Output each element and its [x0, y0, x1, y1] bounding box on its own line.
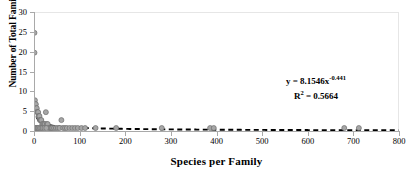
y-tick-mark — [30, 91, 34, 92]
data-point — [114, 126, 119, 131]
data-point — [44, 126, 49, 131]
y-tick-mark — [30, 72, 34, 73]
x-tick-label: 500 — [247, 137, 277, 146]
equation-text: y = 8.1546x-0.441 — [256, 72, 376, 87]
y-tick-label: 25 — [5, 28, 27, 36]
chart-title — [0, 0, 405, 1]
data-point — [342, 126, 347, 131]
r-squared-superscript: 2 — [300, 89, 303, 96]
data-point — [43, 110, 48, 115]
x-tick-label: 100 — [65, 137, 95, 146]
y-axis-line — [34, 12, 35, 132]
y-tick-mark — [30, 52, 34, 53]
y-tick-label: 10 — [5, 87, 27, 95]
x-tick-label: 300 — [156, 137, 186, 146]
data-point — [83, 126, 88, 131]
y-tick-label: 30 — [5, 8, 27, 16]
data-point — [356, 126, 361, 131]
data-point — [59, 118, 64, 123]
x-tick-label: 200 — [110, 137, 140, 146]
x-tick-label: 700 — [338, 137, 368, 146]
y-tick-mark — [30, 12, 34, 13]
x-tick-label: 400 — [202, 137, 232, 146]
x-axis-title: Species per Family — [34, 155, 399, 167]
data-point — [211, 126, 216, 131]
y-tick-mark — [30, 32, 34, 33]
x-tick-label: 800 — [384, 137, 410, 146]
r-squared-text: R2 = 0.5664 — [256, 87, 376, 102]
y-tick-label: 0 — [5, 127, 27, 135]
x-tick-label: 600 — [293, 137, 323, 146]
r-squared-value: = 0.5664 — [306, 91, 338, 101]
y-tick-label: 15 — [5, 68, 27, 76]
trendline-annotation: y = 8.1546x-0.441 R2 = 0.5664 — [256, 72, 376, 102]
data-point — [93, 126, 98, 131]
equation-exponent: -0.441 — [329, 74, 346, 81]
x-tick-label: 0 — [19, 137, 49, 146]
y-tick-mark — [30, 111, 34, 112]
y-tick-label: 20 — [5, 48, 27, 56]
equation-base: y = 8.1546x — [286, 76, 329, 86]
data-point — [159, 126, 164, 131]
y-tick-label: 5 — [5, 107, 27, 115]
